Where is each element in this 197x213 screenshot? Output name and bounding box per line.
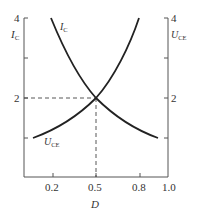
- x-tick-label-0.2: 0.2: [45, 181, 59, 193]
- tick-label-right-4: 4: [171, 12, 177, 24]
- tick-label-left-4: 4: [14, 12, 20, 24]
- ic-curve-label: IC: [59, 21, 68, 33]
- x-tick-label-1.0: 1.0: [162, 181, 176, 193]
- x-tick-label-0.5: 0.5: [88, 181, 102, 193]
- uce-curve-label: UCE: [44, 136, 60, 148]
- chart: 4 2 4 2 0.2 0.5 0.8 1.0 D IC UCE IC UCE: [0, 0, 197, 213]
- right-axis-label: UCE: [171, 29, 187, 41]
- ic-curve: [51, 18, 158, 138]
- tick-label-right-2: 2: [171, 92, 177, 104]
- left-axis-label: IC: [10, 28, 20, 42]
- tick-label-left-2: 2: [14, 92, 20, 104]
- x-axis-label: D: [90, 198, 99, 210]
- x-tick-label-0.8: 0.8: [132, 181, 146, 193]
